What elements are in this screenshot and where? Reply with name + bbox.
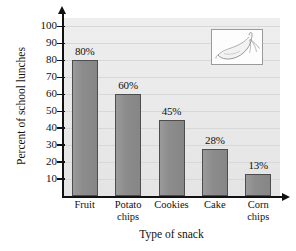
bar-value-label: 80% — [65, 45, 105, 57]
x-axis-category-label: Cornchips — [234, 199, 282, 222]
y-axis-tick-label: 20 — [5, 155, 57, 167]
x-axis-title: Type of snack — [63, 228, 280, 240]
x-axis-arrow-icon — [282, 193, 290, 201]
category-label-line: Fruit — [61, 199, 109, 211]
y-axis-tick — [57, 26, 65, 27]
bar — [72, 60, 98, 196]
y-axis-tick-label: 10 — [5, 172, 57, 184]
bar-value-label: 28% — [195, 134, 235, 146]
y-axis-tick-label: 60 — [5, 87, 57, 99]
y-axis-tick-label: 90 — [5, 36, 57, 48]
y-axis-arrow-icon — [58, 6, 66, 14]
bar — [115, 94, 141, 196]
x-axis-category-label: Potatochips — [104, 199, 152, 222]
y-axis-tick — [57, 178, 65, 179]
y-axis-tick — [57, 43, 65, 44]
y-axis-tick — [57, 127, 65, 128]
x-axis-category-label: Cookies — [148, 199, 196, 211]
y-axis-line — [62, 12, 64, 198]
banana-icon — [212, 30, 262, 64]
y-axis-tick — [57, 94, 65, 95]
y-axis-tick-label: 70 — [5, 70, 57, 82]
category-label-line: chips — [104, 211, 152, 223]
category-label-line: Potato — [104, 199, 152, 211]
category-label-line: chips — [234, 211, 282, 223]
x-axis-category-label: Fruit — [61, 199, 109, 211]
bar — [159, 120, 185, 196]
y-axis-tick-label: 40 — [5, 121, 57, 133]
bar — [202, 149, 228, 196]
category-label-line: Cake — [191, 199, 239, 211]
category-label-line: Cookies — [148, 199, 196, 211]
bar-chart: 80%60%45%28%13% 102030405060708090100 Fr… — [0, 0, 296, 251]
x-axis-category-label: Cake — [191, 199, 239, 211]
bar-value-label: 45% — [152, 105, 192, 117]
gridline — [63, 26, 280, 27]
banana-inset-image — [211, 29, 263, 65]
y-axis-tick-label: 80 — [5, 53, 57, 65]
y-axis-tick — [57, 161, 65, 162]
y-axis-title: Percent of school lunches — [15, 21, 27, 191]
y-axis-tick-label: 30 — [5, 138, 57, 150]
bar-value-label: 60% — [108, 79, 148, 91]
y-axis-tick — [57, 144, 65, 145]
y-axis-tick-label: 50 — [5, 104, 57, 116]
y-axis-tick-label: 100 — [5, 19, 57, 31]
bar — [245, 174, 271, 196]
y-axis-tick — [57, 111, 65, 112]
y-axis-tick — [57, 77, 65, 78]
category-label-line: Corn — [234, 199, 282, 211]
x-axis-line — [62, 196, 284, 198]
y-axis-tick — [57, 60, 65, 61]
bar-value-label: 13% — [238, 159, 278, 171]
